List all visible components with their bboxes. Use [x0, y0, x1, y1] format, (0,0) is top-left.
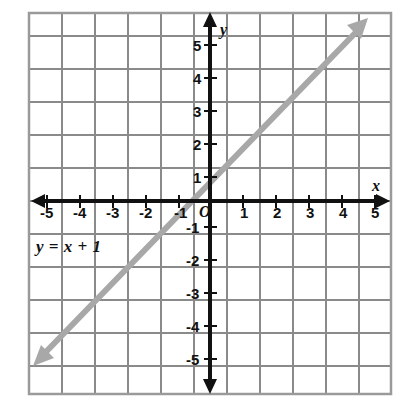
- x-tick-label: 2: [273, 205, 281, 220]
- x-tick-label: 1: [240, 205, 248, 220]
- x-tick-label: -3: [106, 205, 119, 220]
- x-tick-label: -1: [174, 205, 187, 220]
- y-tick-label: 1: [193, 170, 201, 185]
- coordinate-graph-figure: -5 -4 -3 -2 -1 1 2 3 4 5 5 4 3 2 1 -1 -2…: [0, 0, 408, 411]
- y-tick-label: -5: [186, 352, 199, 367]
- equation-annotation: y = x + 1: [36, 238, 101, 255]
- y-tick-label: -3: [186, 286, 199, 301]
- x-tick-label: 5: [371, 205, 379, 220]
- y-axis-label: y: [220, 22, 227, 38]
- x-tick-label: -4: [73, 205, 86, 220]
- x-tick-label: -2: [139, 205, 152, 220]
- x-tick-label: -5: [40, 205, 53, 220]
- y-tick-label: 3: [193, 104, 201, 119]
- x-tick-label: 4: [339, 205, 347, 220]
- y-tick-label: 4: [193, 71, 201, 86]
- y-tick-label: -1: [186, 220, 199, 235]
- y-tick-label: -2: [186, 253, 199, 268]
- x-axis-label: x: [372, 178, 380, 194]
- x-tick-label: 3: [306, 205, 314, 220]
- y-tick-label: 5: [193, 38, 201, 53]
- y-tick-label: 2: [193, 137, 201, 152]
- y-tick-label: -4: [186, 319, 199, 334]
- origin-label: O: [199, 204, 211, 220]
